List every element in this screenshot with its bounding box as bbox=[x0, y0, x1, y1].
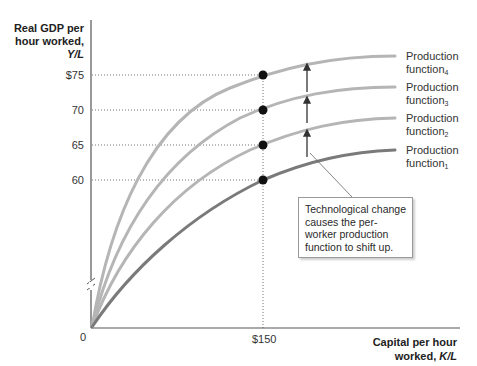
x-tick-150: $150 bbox=[252, 333, 276, 345]
production-function-3-label: Production function3 bbox=[406, 81, 459, 110]
x-axis-title-line2: worked, bbox=[395, 350, 440, 362]
production-function-2-label: Production function2 bbox=[406, 112, 459, 141]
point-pf3 bbox=[259, 106, 268, 115]
y-axis-title-line2: hour worked, bbox=[0, 35, 84, 48]
guide-lines bbox=[92, 75, 263, 328]
production-function-1-label: Production function1 bbox=[406, 144, 459, 173]
production-function-4-label: Production function4 bbox=[406, 50, 459, 79]
y-axis-variable: Y/L bbox=[0, 48, 84, 61]
arrow-up-icon bbox=[304, 97, 310, 103]
origin-label: 0 bbox=[80, 331, 86, 343]
point-pf1 bbox=[259, 176, 268, 185]
annotation-callout: Technological change causes the per-work… bbox=[298, 197, 413, 258]
y-tick-60: 60 bbox=[26, 174, 84, 186]
x-axis-title: Capital per hour worked, K/L bbox=[373, 335, 457, 363]
y-tick-70: 70 bbox=[26, 104, 84, 116]
x-axis-title-line1: Capital per hour bbox=[373, 335, 457, 349]
y-axis-title-line1: Real GDP per bbox=[0, 22, 84, 35]
callout-leader-line bbox=[310, 153, 352, 197]
y-axis-title: Real GDP per hour worked, Y/L bbox=[0, 22, 84, 61]
y-tick-65: 65 bbox=[26, 139, 84, 151]
y-tick-75: $75 bbox=[26, 69, 84, 81]
point-pf4 bbox=[259, 71, 268, 80]
x-axis-variable: K/L bbox=[439, 350, 457, 362]
point-pf2 bbox=[259, 141, 268, 150]
shift-up-arrows bbox=[304, 64, 310, 157]
